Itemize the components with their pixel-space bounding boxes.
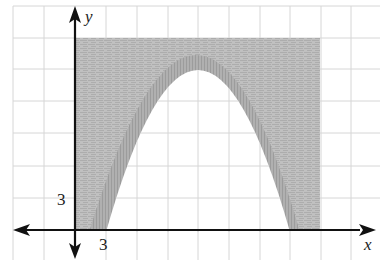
x-axis-label: x: [363, 235, 372, 254]
y-axis-label: y: [83, 7, 93, 26]
x-tick-label: 3: [99, 235, 108, 254]
y-tick-label: 3: [57, 190, 66, 209]
graph: y x 3 3: [0, 0, 380, 260]
